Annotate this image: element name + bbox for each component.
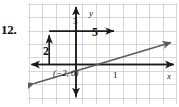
- x-axis-label: x: [167, 72, 171, 81]
- grid-lines: [28, 3, 177, 104]
- y-axis-label: y: [89, 9, 93, 18]
- axes: [32, 7, 175, 98]
- graph-svg: [28, 3, 177, 104]
- y-tick-label-3: 3: [73, 17, 78, 26]
- coordinate-graph: y x 3 1 2 5 (−2, 0): [28, 3, 177, 104]
- rise-annotation-label: 2: [43, 45, 49, 57]
- run-annotation-label: 5: [92, 26, 98, 38]
- problem-number: 12.: [1, 22, 17, 38]
- point-coordinate-label: (−2, 0): [53, 69, 79, 78]
- x-tick-label-1: 1: [113, 71, 118, 80]
- figure-container: 12.: [0, 0, 179, 107]
